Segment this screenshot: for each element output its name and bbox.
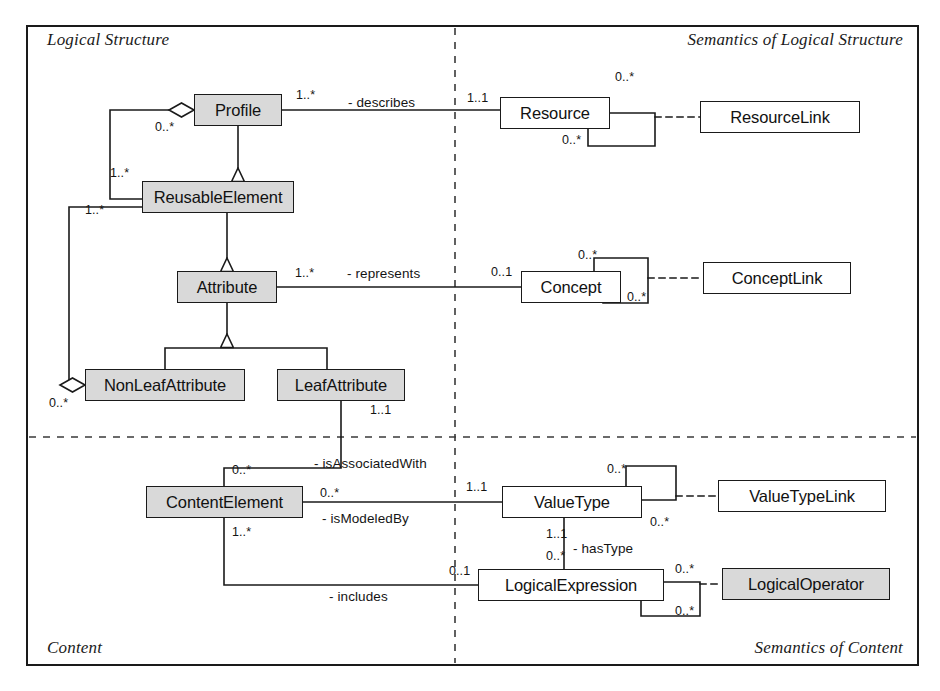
class-box-concept[interactable]: Concept: [521, 271, 621, 303]
multiplicity-label: 0..*: [578, 248, 597, 262]
class-box-logical-operator[interactable]: LogicalOperator: [722, 568, 890, 600]
association-role-isassociatedwith: - isAssociatedWith: [314, 456, 427, 471]
class-box-value-type[interactable]: ValueType: [502, 486, 642, 518]
multiplicity-label: 1..*: [85, 203, 104, 217]
multiplicity-label: 0..*: [650, 515, 669, 529]
multiplicity-label: 0..*: [232, 463, 251, 477]
association-contentelement-includes-logicalexpression: [224, 518, 478, 585]
class-box-content-element[interactable]: ContentElement: [146, 486, 303, 518]
association-role-represents: - represents: [347, 266, 420, 281]
multiplicity-label: 0..1: [449, 564, 470, 578]
association-role-ismodeledby: - isModeledBy: [322, 511, 409, 526]
class-box-resource-link[interactable]: ResourceLink: [700, 101, 860, 133]
class-label: Resource: [520, 104, 590, 123]
connector-lines: [60, 103, 722, 616]
multiplicity-label: 1..*: [232, 525, 251, 539]
multiplicity-label: 0..*: [607, 462, 626, 476]
class-label: ConceptLink: [732, 269, 823, 288]
class-box-concept-link[interactable]: ConceptLink: [703, 262, 851, 294]
multiplicity-label: 0..*: [155, 120, 174, 134]
multiplicity-label: 1..1: [546, 527, 567, 541]
multiplicity-label: 0..*: [675, 604, 694, 618]
multiplicity-label: 0..*: [615, 70, 634, 84]
class-box-logical-expression[interactable]: LogicalExpression: [478, 569, 664, 601]
aggregation-nonleaf-reusable: [60, 207, 142, 392]
association-role-includes: - includes: [329, 589, 388, 604]
class-box-non-leaf-attribute[interactable]: NonLeafAttribute: [85, 369, 245, 401]
class-label: ResourceLink: [730, 108, 830, 127]
class-label: Profile: [215, 101, 261, 120]
class-label: LogicalOperator: [748, 575, 864, 594]
multiplicity-label: 1..*: [110, 166, 129, 180]
class-box-leaf-attribute[interactable]: LeafAttribute: [277, 369, 405, 401]
class-label: ReusableElement: [154, 188, 283, 207]
quadrant-label-logical-structure: Logical Structure: [47, 30, 169, 50]
class-label: ValueTypeLink: [749, 487, 855, 506]
class-box-value-type-link[interactable]: ValueTypeLink: [718, 480, 886, 512]
class-label: ValueType: [534, 493, 610, 512]
quadrant-label-semantics-of-content: Semantics of Content: [755, 638, 903, 658]
multiplicity-label: 1..1: [466, 480, 487, 494]
generalization-attribute-subclasses: [165, 303, 327, 369]
multiplicity-label: 0..*: [320, 486, 339, 500]
multiplicity-label: 1..*: [295, 266, 314, 280]
association-role-hastype: - hasType: [573, 541, 633, 556]
multiplicity-label: 1..1: [467, 91, 488, 105]
class-label: LogicalExpression: [505, 576, 637, 595]
class-box-resource[interactable]: Resource: [500, 97, 610, 129]
quadrant-label-semantics-of-logical-structure: Semantics of Logical Structure: [688, 30, 904, 50]
class-label: Concept: [541, 278, 602, 297]
multiplicity-label: 0..1: [491, 265, 512, 279]
multiplicity-label: 1..1: [370, 403, 391, 417]
class-label: Attribute: [197, 278, 258, 297]
multiplicity-label: 0..*: [627, 290, 646, 304]
class-label: LeafAttribute: [295, 376, 387, 395]
multiplicity-label: 1..*: [296, 88, 315, 102]
class-label: ContentElement: [166, 493, 283, 512]
class-box-attribute[interactable]: Attribute: [177, 271, 277, 303]
multiplicity-label: 0..*: [675, 562, 694, 576]
multiplicity-label: 0..*: [546, 549, 565, 563]
multiplicity-label: 0..*: [49, 396, 68, 410]
quadrant-label-content: Content: [47, 638, 102, 658]
association-role-describes: - describes: [348, 95, 415, 110]
uml-class-diagram: Profile ReusableElement Attribute NonLea…: [0, 0, 940, 691]
multiplicity-label: 0..*: [562, 133, 581, 147]
class-label: NonLeafAttribute: [104, 376, 226, 395]
class-box-profile[interactable]: Profile: [194, 94, 282, 126]
class-box-reusable-element[interactable]: ReusableElement: [142, 181, 294, 213]
